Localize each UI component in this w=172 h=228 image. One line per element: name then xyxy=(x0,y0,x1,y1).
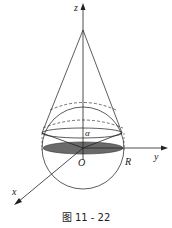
z-axis-arrow-icon xyxy=(81,3,86,10)
cone-side-right xyxy=(83,30,122,133)
figure-caption: 图 11 - 22 xyxy=(0,209,172,224)
y-axis-arrow-icon xyxy=(161,146,168,151)
y-axis-label: y xyxy=(154,152,158,162)
cone-side-left xyxy=(42,30,83,133)
tangent-circle xyxy=(42,128,122,138)
angle-label: α xyxy=(85,129,90,138)
x-axis-label: x xyxy=(12,187,16,197)
x-axis-arrow-icon xyxy=(14,198,22,205)
origin-label: O xyxy=(78,158,85,168)
radius-label: R xyxy=(125,157,131,167)
z-axis-label: z xyxy=(74,3,78,13)
x-axis xyxy=(18,148,83,202)
cone-sphere-diagram xyxy=(0,0,172,228)
